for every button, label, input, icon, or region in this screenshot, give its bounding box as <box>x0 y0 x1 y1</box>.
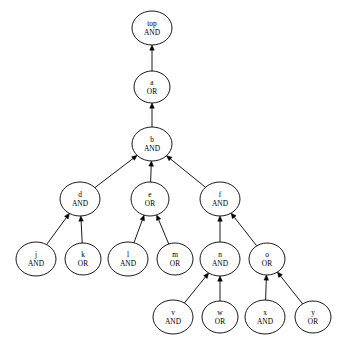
edge-f-to-b <box>166 156 205 188</box>
node-name-label: n <box>218 250 222 259</box>
edge-y-to-o <box>277 272 302 304</box>
node-gate-label: AND <box>212 199 229 208</box>
edge-x-to-o <box>264 275 269 300</box>
node-e[interactable]: eOR <box>131 182 169 216</box>
node-gate-label: AND <box>144 28 161 37</box>
node-w[interactable]: wOR <box>202 301 238 333</box>
node-name-label: m <box>172 250 178 259</box>
node-gate-label: OR <box>215 317 225 326</box>
node-j[interactable]: jAND <box>16 242 56 276</box>
node-gate-label: OR <box>145 199 155 208</box>
edge-line <box>47 218 67 245</box>
edge-line <box>171 159 206 187</box>
edge-line <box>281 276 303 304</box>
node-gate-label: AND <box>144 144 161 153</box>
node-name-label: y <box>311 308 315 317</box>
node-gate-label: AND <box>120 259 137 268</box>
node-gate-label: OR <box>308 317 318 326</box>
node-gate-label: OR <box>147 87 157 96</box>
edge-line <box>234 217 256 246</box>
node-gate-label: AND <box>212 259 229 268</box>
edge-line <box>95 159 133 188</box>
edge-line <box>151 166 152 182</box>
node-d[interactable]: dAND <box>60 182 100 216</box>
edge-v-to-n <box>184 273 208 303</box>
edge-m-to-e <box>157 215 169 244</box>
node-gate-label: OR <box>170 259 180 268</box>
edge-line <box>184 277 205 303</box>
node-b[interactable]: bAND <box>132 127 172 161</box>
node-gate-label: OR <box>262 259 272 268</box>
node-name-label: d <box>78 190 82 199</box>
edge-o-to-f <box>231 213 257 246</box>
arrowhead-icon <box>132 155 138 160</box>
node-l[interactable]: lAND <box>108 242 148 276</box>
arrowhead-icon <box>64 213 69 219</box>
arrowhead-icon <box>150 45 155 50</box>
edge-w-to-n <box>218 276 223 301</box>
arrowhead-icon <box>218 276 223 281</box>
edge-line <box>159 220 169 244</box>
edge-n-to-f <box>218 216 223 242</box>
node-name-label: o <box>265 250 269 259</box>
node-name-label: l <box>127 250 129 259</box>
node-n[interactable]: nAND <box>200 242 240 276</box>
node-name-label: top <box>147 19 157 28</box>
edge-d-to-b <box>95 155 137 187</box>
edge-l-to-e <box>134 215 145 243</box>
node-name-label: k <box>81 250 85 259</box>
fault-tree-diagram: topANDaORbANDdANDeORfANDjANDkORlANDmORnA… <box>0 0 344 343</box>
arrowhead-icon <box>140 215 144 221</box>
nodes-layer: topANDaORbANDdANDeORfANDjANDkORlANDmORnA… <box>16 11 331 334</box>
node-name-label: b <box>150 135 154 144</box>
node-a[interactable]: aOR <box>134 71 170 103</box>
node-v[interactable]: vAND <box>153 300 193 334</box>
edge-k-to-d <box>79 216 84 243</box>
node-gate-label: AND <box>72 199 89 208</box>
node-x[interactable]: xAND <box>245 300 285 334</box>
node-name-label: w <box>217 308 223 317</box>
edge-e-to-b <box>149 161 154 182</box>
edge-a-to-top <box>150 45 155 71</box>
node-gate-label: AND <box>28 259 45 268</box>
node-f[interactable]: fAND <box>200 182 240 216</box>
edge-b-to-a <box>150 103 155 127</box>
node-gate-label: AND <box>257 317 274 326</box>
arrowhead-icon <box>218 216 223 221</box>
node-k[interactable]: kOR <box>65 243 101 275</box>
arrowhead-icon <box>79 216 84 221</box>
edge-line <box>266 280 267 300</box>
edge-line <box>81 221 82 243</box>
node-name-label: v <box>171 308 175 317</box>
arrowhead-icon <box>157 215 161 221</box>
node-y[interactable]: yOR <box>295 301 331 333</box>
node-name-label: x <box>263 308 267 317</box>
node-m[interactable]: mOR <box>157 243 193 275</box>
node-gate-label: OR <box>78 259 88 268</box>
arrowhead-icon <box>231 213 236 219</box>
edge-j-to-d <box>47 213 70 244</box>
edge-line <box>134 220 142 243</box>
arrowhead-icon <box>150 103 155 108</box>
node-gate-label: AND <box>165 317 182 326</box>
arrowhead-icon <box>264 275 269 280</box>
arrowhead-icon <box>149 161 154 166</box>
node-o[interactable]: oOR <box>249 243 285 275</box>
node-name-label: j <box>34 250 37 259</box>
node-top[interactable]: topAND <box>132 11 172 45</box>
